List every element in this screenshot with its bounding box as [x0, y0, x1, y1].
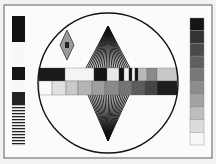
- left-block: [12, 42, 25, 67]
- left-block: [12, 67, 25, 80]
- left-stripe: [12, 118, 25, 120]
- gray-step: [190, 43, 204, 56]
- gray-step: [190, 82, 204, 95]
- gray-step: [190, 18, 204, 31]
- left-stripe: [12, 128, 25, 130]
- bottom-band-segment: [105, 81, 119, 95]
- gray-step: [190, 132, 204, 145]
- left-stripe: [12, 115, 25, 117]
- left-stripe: [12, 131, 25, 133]
- gray-step: [190, 31, 204, 44]
- top-band-segment: [132, 68, 135, 81]
- left-stripe: [12, 121, 25, 123]
- left-contrast-strip: [12, 16, 25, 146]
- left-stripe: [12, 136, 25, 138]
- bottom-band-segment: [145, 81, 157, 95]
- top-band-segment: [135, 68, 138, 81]
- top-band-segment: [129, 68, 132, 81]
- top-band-segment: [65, 68, 94, 81]
- left-stripe: [12, 125, 25, 127]
- left-stripe: [12, 139, 25, 141]
- bottom-band-segment: [157, 81, 177, 95]
- right-grayscale-strip: [190, 18, 204, 145]
- bottom-band-segment: [52, 81, 66, 95]
- top-band-segment: [39, 68, 65, 81]
- top-band-segment: [147, 68, 157, 81]
- left-stripe: [12, 106, 25, 108]
- left-stripe: [12, 130, 25, 132]
- left-block: [12, 92, 25, 104]
- gray-step: [190, 94, 204, 107]
- gray-step: [190, 69, 204, 82]
- bottom-band-segment: [39, 81, 52, 95]
- left-stripe: [12, 143, 25, 145]
- left-stripe: [12, 133, 25, 135]
- left-stripe: [12, 137, 25, 139]
- top-band-segment: [107, 68, 119, 81]
- gray-step: [190, 120, 204, 133]
- left-stripe: [12, 145, 25, 147]
- left-stripe: [12, 109, 25, 111]
- left-stripe: [12, 107, 25, 109]
- bottom-band-segment: [78, 81, 92, 95]
- left-stripe: [12, 134, 25, 136]
- bottom-band-segment: [119, 81, 132, 95]
- bottom-band-segment: [66, 81, 78, 95]
- top-band-segment: [138, 68, 147, 81]
- gray-step: [190, 107, 204, 120]
- gray-step: [190, 56, 204, 69]
- left-stripe: [12, 124, 25, 126]
- top-band-segment: [119, 68, 124, 81]
- left-stripe: [12, 113, 25, 115]
- left-stripe: [12, 119, 25, 121]
- top-band-segment: [157, 68, 177, 81]
- left-stripe: [12, 116, 25, 118]
- left-stripe: [12, 140, 25, 142]
- left-block: [12, 80, 25, 92]
- diamond-center: [65, 42, 69, 48]
- bottom-band-segment: [132, 81, 145, 95]
- left-stripe: [12, 122, 25, 124]
- left-stripe: [12, 127, 25, 129]
- center-bands: [39, 68, 177, 95]
- left-block: [12, 16, 25, 42]
- left-stripe: [12, 104, 25, 106]
- top-band-segment: [124, 68, 129, 81]
- bottom-band-segment: [92, 81, 105, 95]
- left-stripe: [12, 142, 25, 144]
- left-stripe: [12, 112, 25, 114]
- test-pattern-card: [0, 0, 216, 164]
- left-stripe: [12, 110, 25, 112]
- top-band-segment: [94, 68, 107, 81]
